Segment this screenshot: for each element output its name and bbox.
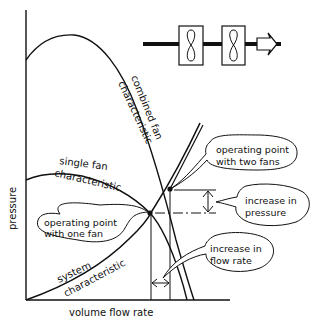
pressure-increase-arrow bbox=[203, 191, 213, 212]
combined-curve-extension bbox=[170, 125, 203, 189]
flow-increase-arrow bbox=[152, 279, 169, 287]
svg-text:pressure: pressure bbox=[245, 207, 286, 218]
svg-text:operating point: operating point bbox=[44, 217, 117, 228]
y-axis-label: pressure bbox=[7, 187, 18, 230]
single-curve-label-2: characteristic bbox=[54, 167, 123, 193]
callout-pressure: increase in pressure bbox=[216, 184, 309, 226]
svg-text:increase in: increase in bbox=[245, 195, 297, 206]
fan-diagram: volume flow rate pressure combined fan c… bbox=[0, 0, 319, 327]
fan-schematic bbox=[143, 26, 281, 65]
svg-text:operating point: operating point bbox=[216, 144, 289, 155]
combined-fan-curve bbox=[26, 35, 194, 300]
svg-text:flow rate: flow rate bbox=[210, 255, 252, 266]
operating-point-one-fan bbox=[147, 210, 152, 215]
fan-2-icon bbox=[222, 26, 245, 65]
fan-1-icon bbox=[179, 26, 203, 65]
callout-flow: increase in flow rate bbox=[163, 233, 274, 278]
x-axis-label: volume flow rate bbox=[69, 307, 153, 318]
svg-text:with two fans: with two fans bbox=[216, 156, 280, 167]
svg-text:with one fan: with one fan bbox=[44, 228, 103, 239]
flow-direction-arrow-icon bbox=[257, 33, 277, 55]
svg-text:increase in: increase in bbox=[210, 243, 262, 254]
